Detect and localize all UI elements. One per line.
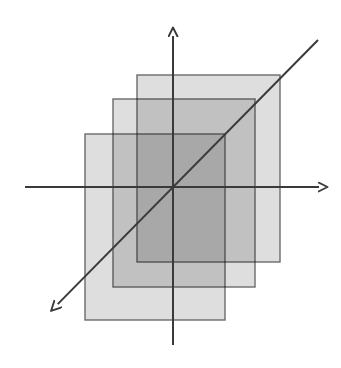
rectangle-stack xyxy=(85,75,280,320)
figure-canvas xyxy=(0,0,341,368)
front-rectangle[interactable] xyxy=(85,134,225,320)
diagram-svg xyxy=(0,0,341,368)
